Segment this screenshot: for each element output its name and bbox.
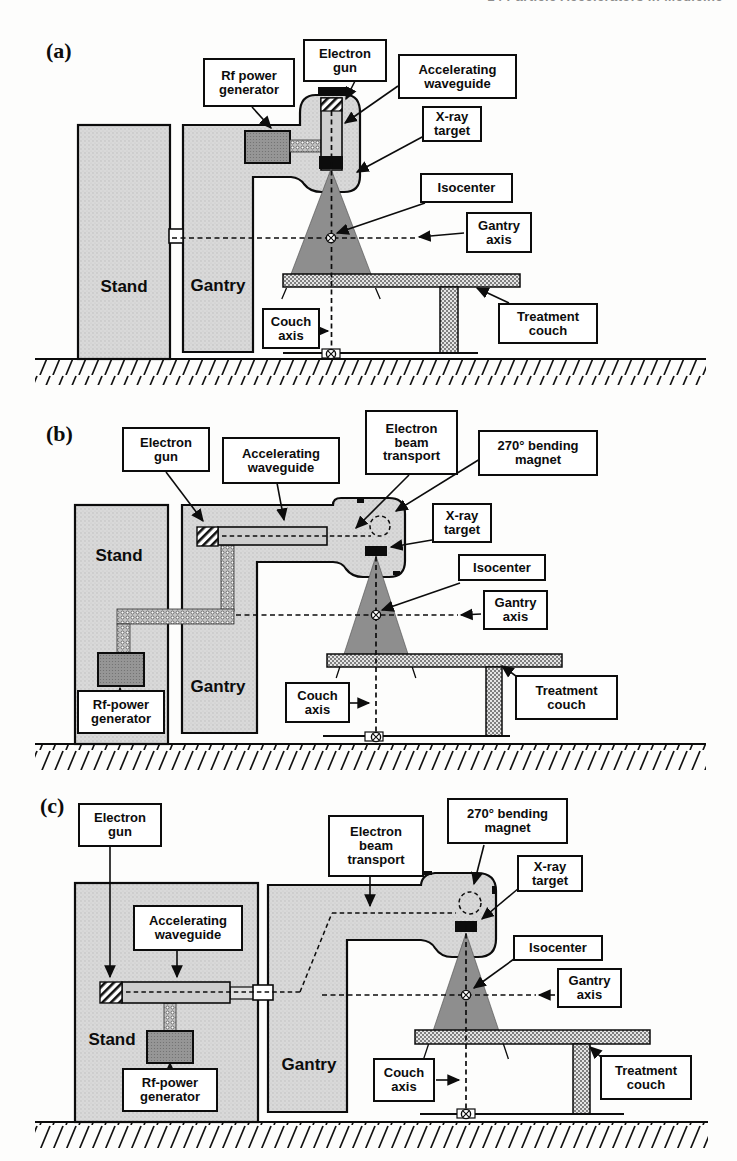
head-tick [492,886,496,894]
gantry-bearing [253,985,273,1000]
panel-c-label-accelerating-waveguide: Accelerating waveguide [133,905,243,951]
panel-c-label-treatment-couch: Treatment couch [600,1055,692,1100]
rf-waveguide-path [164,1003,176,1031]
arrow-xray-target [357,136,424,172]
couch-axis-marker [461,1109,470,1118]
panel-b-gantry-text: Gantry [191,678,246,695]
panel-c-label-gantry-axis: Gantry axis [557,968,622,1008]
treatment-couch-top [327,654,562,667]
treatment-couch-top [415,1030,650,1044]
rf-generator-shape [147,1031,193,1063]
arrow-gantry-axis [419,233,464,237]
panel-a-letter: (a) [46,40,72,62]
panel-b-label-bending-magnet: 270° bending magnet [478,430,598,476]
rf-generator-shape [98,653,144,686]
panel-c-label-electron-gun: Electron gun [78,803,162,847]
rf-waveguide-path [117,609,234,624]
panel-b-label-isocenter: Isocenter [458,554,546,581]
panel-a-label-treatment-couch: Treatment couch [498,303,598,344]
floor-hatching [35,745,706,770]
arrow-isocenter [382,583,460,610]
rf-waveguide-path [221,545,234,611]
head-tick [357,499,364,503]
panel-c-label-isocenter: Isocenter [513,935,603,961]
panel-a-label-xray-target: X-ray target [422,106,482,142]
arrow-gantry-axis [461,614,481,615]
panel-c-letter: (c) [40,795,64,817]
panel-b-letter: (b) [46,423,73,445]
electron-gun-shape [100,982,122,1003]
linac-diagram-canvas [0,0,737,1161]
panel-a-gantry-text: Gantry [191,277,246,294]
couch-axis-marker [326,349,335,358]
couch-pedestal [486,667,502,736]
panel-c-label-xray-target: X-ray target [517,855,583,892]
rf-waveguide-path [117,624,130,653]
panel-b-label-electron-beam-transport: Electron beam transport [365,410,458,475]
panel-b-label-gantry-axis: Gantry axis [483,590,548,630]
electron-gun-shape [321,98,342,111]
head-cap [318,87,348,96]
panel-a-label-accelerating-waveguide: Accelerating waveguide [398,54,517,99]
panel-b-label-couch-axis: Couch axis [285,682,350,723]
panel-a-label-couch-axis: Couch axis [262,308,320,349]
panel-a-stand-text: Stand [100,278,147,295]
couch-axis-marker [371,732,380,741]
couch-pedestal [440,287,458,353]
panel-c-gantry-text: Gantry [282,1056,337,1073]
treatment-couch-top [283,274,520,287]
panel-c-label-electron-beam-transport: Electron beam transport [328,815,424,877]
panel-b-label-electron-gun: Electron gun [122,427,210,472]
panel-a-label-gantry-axis: Gantry axis [466,212,532,253]
floor-hatching [35,360,706,385]
isocenter-marker [371,610,380,619]
panel-a-label-rf-power: Rf power generator [203,58,295,107]
gantry-bearing [169,229,183,243]
arrow-isocenter [337,203,425,233]
couch-pedestal [573,1044,590,1114]
panel-c-label-couch-axis: Couch axis [373,1058,435,1102]
panel-b-label-rf-power: Rf-power generator [77,690,165,734]
panel-c-label-rf-power: Rf-power generator [122,1068,218,1112]
isocenter-marker [461,990,470,999]
head-tick [424,871,432,875]
panel-a-drawing [35,81,706,385]
panel-a-label-isocenter: Isocenter [420,173,513,203]
arrow-isocenter [474,959,514,988]
head-tick [393,571,400,575]
panel-b-label-xray-target: X-ray target [432,503,492,543]
panel-b-label-accelerating-waveguide: Accelerating waveguide [222,437,340,484]
arrow-treatment-couch [477,288,509,303]
panel-b-label-treatment-couch: Treatment couch [515,675,618,720]
figure-page: 14 Particle Accelerators in Medicine [0,0,737,1161]
panel-c-label-bending-magnet: 270° bending magnet [447,798,568,844]
rf-generator-shape [245,131,290,163]
panel-a-label-electron-gun: Electron gun [303,39,387,82]
panel-c-stand-text: Stand [88,1031,135,1048]
isocenter-marker [326,233,335,242]
electron-gun-shape [197,527,218,546]
panel-b-stand-text: Stand [95,547,142,564]
stand-shape [78,125,170,359]
floor-hatching [35,1123,708,1148]
rf-waveguide-coupler [290,140,321,152]
